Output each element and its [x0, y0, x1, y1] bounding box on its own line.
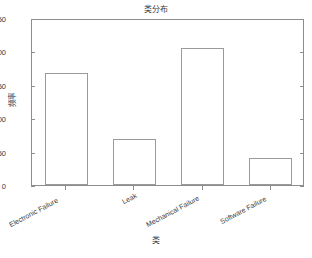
x-tick-mark — [133, 186, 134, 190]
y-tick-mark — [31, 86, 35, 87]
y-tick-mark-right — [300, 19, 304, 20]
bar — [249, 158, 292, 185]
plot-area — [31, 19, 304, 186]
x-tick-mark — [270, 186, 271, 190]
y-tick-mark-right — [300, 86, 304, 87]
bar — [181, 48, 224, 185]
y-axis-label: 频率 — [6, 80, 17, 120]
y-tick-mark-right — [300, 52, 304, 53]
y-tick-label: 250 — [0, 15, 6, 24]
y-tick-label: 100 — [0, 115, 6, 124]
bar — [113, 139, 156, 185]
y-tick-mark-right — [300, 186, 304, 187]
y-tick-label: 150 — [0, 81, 6, 90]
y-tick-label: 50 — [0, 148, 6, 157]
y-tick-mark — [31, 19, 35, 20]
x-category-label: Mechanical Failure — [145, 195, 200, 229]
chart-title: 类分布 — [0, 3, 312, 14]
y-tick-label: 0 — [0, 182, 6, 191]
y-tick-label: 200 — [0, 48, 6, 57]
x-tick-mark — [202, 186, 203, 190]
x-axis-label: 类 — [0, 234, 312, 245]
x-category-label: Electronic Failure — [8, 197, 59, 229]
x-tick-mark — [65, 186, 66, 190]
bar — [45, 73, 88, 185]
y-tick-mark-right — [300, 153, 304, 154]
bar-chart-figure: 类分布 频率 050100150200250 Electronic Failur… — [0, 0, 312, 258]
x-category-label: Leak — [121, 192, 138, 205]
bar-series — [32, 20, 303, 185]
x-category-label: Software Failure — [219, 195, 267, 225]
y-tick-mark — [31, 153, 35, 154]
y-tick-mark-right — [300, 119, 304, 120]
y-tick-mark — [31, 186, 35, 187]
y-tick-mark — [31, 52, 35, 53]
y-tick-mark — [31, 119, 35, 120]
